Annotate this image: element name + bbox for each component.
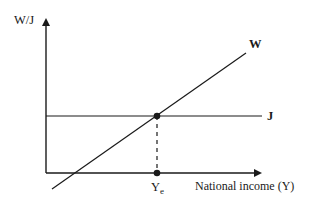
wj-diagram: W/J National income (Y) J W Ye — [0, 0, 315, 203]
w-label: W — [249, 37, 262, 51]
x-axis-label: National income (Y) — [195, 179, 294, 193]
equilibrium-label-main: Y — [151, 180, 160, 194]
w-line — [52, 53, 246, 189]
equilibrium-point — [154, 113, 161, 120]
equilibrium-label-sub: e — [160, 186, 164, 196]
equilibrium-income-label: Ye — [151, 180, 164, 196]
y-axis-label: W/J — [14, 13, 34, 27]
equilibrium-income-point — [154, 170, 161, 177]
j-label: J — [267, 109, 273, 123]
